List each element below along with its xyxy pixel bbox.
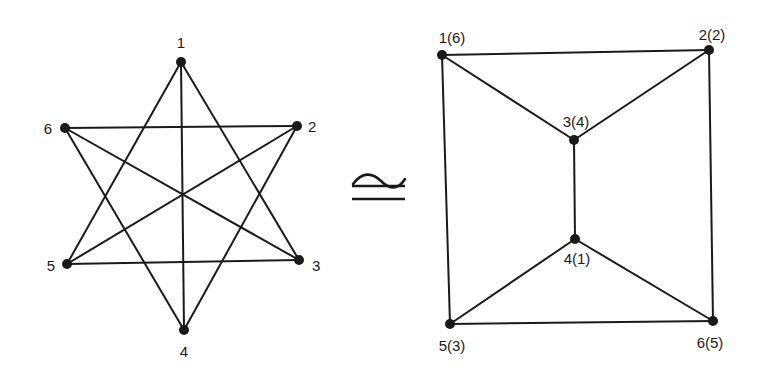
right-node-label-1: 1(6) (439, 29, 466, 46)
left-node-label-5: 5 (47, 257, 55, 274)
right-edge-4-6 (575, 239, 713, 321)
right-node-label-6: 6(5) (697, 334, 724, 351)
left-node-4 (179, 325, 189, 335)
left-node-1 (176, 57, 186, 67)
right-edge-5-6 (450, 321, 713, 324)
right-node-1 (437, 50, 447, 60)
left-node-label-4: 4 (180, 343, 188, 360)
right-edge-3-4 (574, 140, 575, 239)
right-node-label-2: 2(2) (699, 26, 726, 43)
right-node-3 (569, 135, 579, 145)
left-node-2 (292, 121, 302, 131)
right-edge-1-2 (442, 50, 709, 55)
left-edge-6-2 (65, 126, 297, 128)
left-node-label-3: 3 (312, 257, 320, 274)
left-node-label-6: 6 (44, 120, 52, 137)
right-node-2 (704, 45, 714, 55)
right-node-label-4: 4(1) (564, 250, 591, 267)
congruence-symbol (352, 175, 405, 199)
right-node-label-3: 3(4) (563, 113, 590, 130)
right-edge-4-5 (450, 239, 575, 324)
right-graph-edges (442, 50, 713, 324)
right-graph-nodes (437, 45, 718, 329)
left-node-label-1: 1 (177, 34, 185, 51)
left-node-5 (62, 259, 72, 269)
right-edge-2-3 (574, 50, 709, 140)
right-node-6 (708, 316, 718, 326)
left-edge-1-5 (67, 62, 181, 264)
right-node-label-5: 5(3) (439, 337, 466, 354)
isomorphism-diagram: 123456 1(6)2(2)3(4)4(1)5(3)6(5) (0, 0, 771, 373)
right-edge-1-3 (442, 55, 574, 140)
left-node-6 (60, 123, 70, 133)
right-node-5 (445, 319, 455, 329)
right-edge-2-6 (709, 50, 713, 321)
right-graph-labels: 1(6)2(2)3(4)4(1)5(3)6(5) (439, 26, 726, 354)
left-graph-edges (65, 62, 299, 330)
right-edge-1-5 (442, 55, 450, 324)
right-node-4 (570, 234, 580, 244)
left-node-3 (294, 255, 304, 265)
left-node-label-2: 2 (308, 118, 316, 135)
